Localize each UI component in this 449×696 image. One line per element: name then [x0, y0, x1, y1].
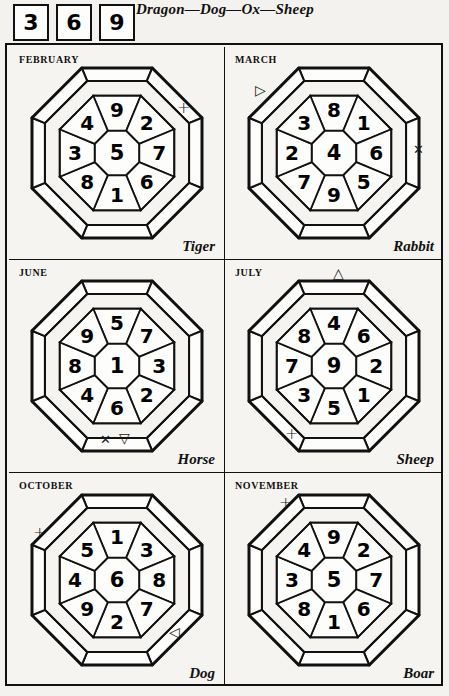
sector-label-e: 7	[369, 567, 383, 591]
sector-label-w: 7	[285, 354, 299, 378]
sector-label-ne: 2	[139, 111, 153, 135]
sector-label-ne: 7	[139, 324, 153, 348]
month-cell-october[interactable]: OCTOBER138729456+◁Dog	[9, 473, 225, 686]
sector-label-s: 9	[327, 183, 341, 207]
sector-label-nw: 9	[80, 324, 94, 348]
sector-label-nw: 4	[80, 111, 94, 135]
plus-marker: +	[279, 495, 292, 511]
sector-label-n: 8	[327, 98, 341, 122]
sector-label-w: 8	[67, 354, 81, 378]
page-title: Dragon—Dog—Ox—Sheep	[136, 1, 314, 18]
sector-label-nw: 8	[297, 324, 311, 348]
triangle-down-marker: ▽	[119, 431, 130, 445]
sector-label-se: 1	[357, 383, 371, 407]
outer-band-segment	[406, 544, 419, 614]
animal-label: Dog	[189, 665, 215, 682]
sector-label-e: 7	[152, 141, 166, 165]
sector-label-se: 2	[139, 383, 153, 407]
sector-label-e: 8	[152, 567, 166, 591]
plus-marker: +	[285, 426, 298, 442]
sector-label-sw: 7	[297, 170, 311, 194]
bagua-octagon: 138729456	[22, 485, 212, 675]
sector-label-sw: 3	[297, 383, 311, 407]
outer-band-segment	[189, 118, 202, 188]
bagua-octagon: 927618345	[239, 485, 429, 675]
bagua-octagon: 816597234	[239, 58, 429, 248]
number-box-2: 6	[56, 4, 92, 41]
sector-label-ne: 6	[357, 324, 371, 348]
outer-band-segment	[189, 331, 202, 401]
header: 369 Dragon—Dog—Ox—Sheep	[0, 0, 449, 42]
triangle-up-marker: △	[333, 266, 344, 280]
center-label: 4	[327, 141, 342, 165]
outer-band-segment	[81, 495, 151, 508]
outer-band-segment	[299, 225, 369, 238]
diagram-container: 138729456	[22, 485, 212, 675]
outer-band-segment	[249, 331, 262, 401]
outer-band-segment	[299, 281, 369, 294]
outer-band-segment	[299, 495, 369, 508]
animal-label: Horse	[178, 451, 216, 468]
sector-label-w: 3	[285, 567, 299, 591]
table-frame: FEBRUARY927618345+TigerMARCH816597234▷✕R…	[5, 43, 443, 686]
sector-label-s: 1	[327, 609, 341, 633]
month-cell-february[interactable]: FEBRUARY927618345+Tiger	[9, 47, 225, 260]
animal-label: Boar	[403, 665, 434, 682]
month-cell-june[interactable]: JUNE573264891✕▽Horse	[9, 260, 225, 473]
outer-band-segment	[81, 652, 151, 665]
sector-label-e: 3	[152, 354, 166, 378]
outer-band-segment	[249, 118, 262, 188]
page-root: 369 Dragon—Dog—Ox—Sheep FEBRUARY92761834…	[0, 0, 449, 696]
sector-label-e: 6	[369, 141, 383, 165]
month-grid: FEBRUARY927618345+TigerMARCH816597234▷✕R…	[9, 47, 443, 686]
sector-label-se: 6	[357, 597, 371, 621]
sector-label-se: 6	[139, 170, 153, 194]
outer-band-segment	[32, 544, 45, 614]
diagram-container: 927618345	[22, 58, 212, 248]
cross-marker: ✕	[100, 433, 111, 446]
outer-band-segment	[32, 331, 45, 401]
sector-label-n: 1	[110, 525, 124, 549]
cross-marker: ✕	[413, 143, 424, 156]
outer-band-segment	[32, 118, 45, 188]
diagram-container: 816597234	[239, 58, 429, 248]
sector-label-n: 4	[327, 311, 341, 335]
sector-label-w: 4	[67, 567, 81, 591]
plus-marker: +	[33, 525, 46, 541]
sector-label-w: 2	[285, 141, 299, 165]
sector-label-sw: 8	[297, 597, 311, 621]
animal-label: Sheep	[397, 451, 435, 468]
sector-label-sw: 8	[80, 170, 94, 194]
month-cell-march[interactable]: MARCH816597234▷✕Rabbit	[225, 47, 443, 260]
center-label: 5	[109, 141, 124, 165]
number-box-3: 9	[99, 4, 135, 41]
diagram-container: 573264891	[22, 271, 212, 461]
animal-label: Tiger	[182, 238, 215, 255]
plus-marker: +	[177, 100, 190, 116]
month-cell-november[interactable]: NOVEMBER927618345+Boar	[225, 473, 443, 686]
sector-label-n: 9	[110, 98, 124, 122]
sector-label-nw: 3	[297, 111, 311, 135]
sector-label-ne: 3	[139, 537, 153, 561]
bagua-octagon: 462153789	[239, 271, 429, 461]
center-label: 6	[109, 568, 124, 592]
outer-band-segment	[81, 281, 151, 294]
month-cell-july[interactable]: JULY462153789△+Sheep	[225, 260, 443, 473]
sector-label-ne: 1	[357, 111, 371, 135]
center-label: 9	[327, 354, 342, 378]
triangle-right-marker: ◁	[169, 625, 180, 639]
center-label: 5	[327, 568, 342, 592]
outer-band-segment	[406, 331, 419, 401]
sector-label-n: 5	[110, 311, 124, 335]
sector-label-se: 7	[139, 597, 153, 621]
outer-band-segment	[81, 68, 151, 81]
outer-band-segment	[189, 544, 202, 614]
outer-band-segment	[299, 438, 369, 451]
sector-label-sw: 4	[80, 383, 94, 407]
outer-band-segment	[249, 544, 262, 614]
triangle-right-marker: ▷	[255, 83, 266, 97]
diagram-container: 462153789	[239, 271, 429, 461]
number-box-1: 3	[13, 4, 49, 41]
sector-label-n: 9	[327, 525, 341, 549]
center-label: 1	[109, 354, 124, 378]
